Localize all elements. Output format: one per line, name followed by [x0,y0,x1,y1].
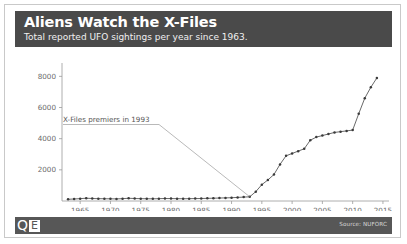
chart-footer: Q E Source: NUFORC [15,217,392,234]
svg-text:2010: 2010 [344,206,363,211]
svg-text:1965: 1965 [71,206,89,211]
svg-text:2000: 2000 [38,165,57,174]
svg-text:2005: 2005 [313,206,331,211]
svg-text:1980: 1980 [162,206,181,211]
logo-letter-q: Q [17,218,28,233]
chart-card: Aliens Watch the X-Files Total reported … [4,4,401,238]
svg-text:4000: 4000 [38,134,57,143]
qe-logo: Q E [17,217,40,234]
svg-text:1985: 1985 [192,206,210,211]
svg-text:1970: 1970 [101,206,120,211]
data-series-ufo-sightings [67,77,378,201]
svg-text:2015: 2015 [374,206,392,211]
svg-text:6000: 6000 [38,103,57,112]
svg-text:1995: 1995 [253,206,271,211]
chart-annotation: X-Files premiers in 1993 [63,115,250,197]
svg-text:2000: 2000 [283,206,302,211]
svg-text:8000: 8000 [38,72,57,81]
chart-plot-area: 2000400060008000 19651970197519801985199… [15,51,392,211]
page-subtitle: Total reported UFO sightings per year si… [24,31,392,44]
x-axis-ticks: 1965197019751980198519901995200020052010… [71,201,392,211]
svg-text:X-Files premiers in 1993: X-Files premiers in 1993 [63,115,150,124]
svg-text:1990: 1990 [222,206,241,211]
logo-letter-e: E [29,220,40,232]
y-axis-ticks: 2000400060008000 [38,72,62,174]
chart-header: Aliens Watch the X-Files Total reported … [15,11,392,47]
line-chart: 2000400060008000 19651970197519801985199… [15,51,392,211]
source-credit: Source: NUFORC [339,221,387,227]
page-title: Aliens Watch the X-Files [24,14,392,31]
svg-text:1975: 1975 [132,206,150,211]
